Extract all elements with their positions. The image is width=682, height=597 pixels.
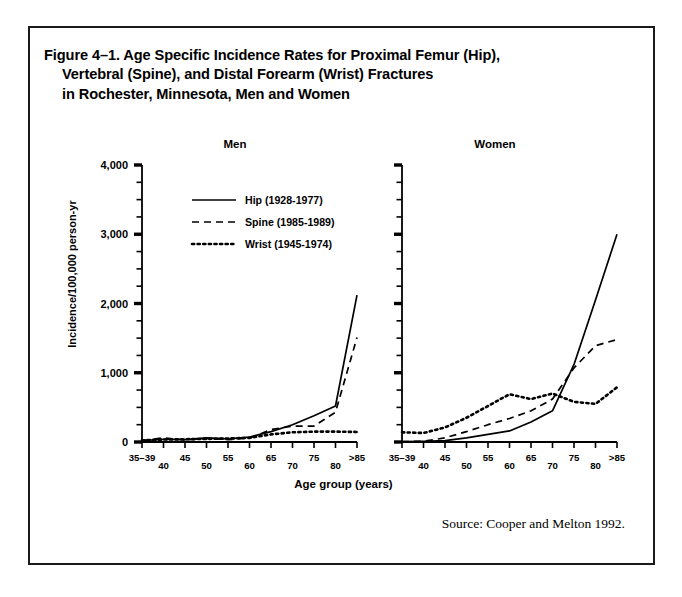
- y-tick-label: 2,000: [100, 298, 128, 310]
- source-note: Source: Cooper and Melton 1992.: [442, 516, 625, 532]
- panel-men: 35–39404550556065707580>8501,0002,0003,0…: [100, 159, 365, 471]
- x-tick-label: >85: [609, 452, 626, 463]
- y-tick-label: 4,000: [100, 159, 128, 171]
- x-tick-label: 45: [180, 452, 191, 463]
- y-tick-label: 1,000: [100, 367, 128, 379]
- x-tick-label: 35–39: [129, 452, 156, 463]
- x-tick-label: 55: [223, 452, 234, 463]
- legend-label-wrist: Wrist (1945-1974): [245, 238, 332, 250]
- x-tick-label: 65: [266, 452, 277, 463]
- x-tick-label: 60: [244, 460, 255, 471]
- x-tick-label: 40: [158, 460, 169, 471]
- x-tick-label: 40: [418, 460, 429, 471]
- series-line-solid: [402, 234, 617, 441]
- x-tick-label: 65: [526, 452, 537, 463]
- figure-frame: Figure 4–1. Age Specific Incidence Rates…: [28, 26, 655, 565]
- chart-plot-area: 35–39404550556065707580>8501,0002,0003,0…: [30, 28, 657, 498]
- y-tick-label: 0: [122, 436, 128, 448]
- legend-label-hip: Hip (1928-1977): [245, 194, 323, 206]
- x-tick-label: 70: [287, 460, 298, 471]
- series-line-solid: [142, 295, 357, 440]
- series-line-dashed: [402, 340, 617, 442]
- x-tick-label: >85: [349, 452, 366, 463]
- x-tick-label: 45: [440, 452, 451, 463]
- x-tick-label: 75: [309, 452, 320, 463]
- x-tick-label: 55: [483, 452, 494, 463]
- x-tick-label: 60: [504, 460, 515, 471]
- x-axis-title: Age group (years): [30, 478, 657, 490]
- chart-legend: Hip (1928-1977)Spine (1985-1989)Wrist (1…: [192, 194, 335, 250]
- series-line-dotted: [402, 387, 617, 433]
- panel-women: 35–39404550556065707580>85: [389, 165, 626, 471]
- x-tick-label: 50: [461, 460, 472, 471]
- series-line-dashed: [142, 337, 357, 440]
- x-tick-label: 70: [547, 460, 558, 471]
- y-tick-label: 3,000: [100, 228, 128, 240]
- x-tick-label: 80: [330, 460, 341, 471]
- x-tick-label: 35–39: [389, 452, 416, 463]
- x-tick-label: 80: [590, 460, 601, 471]
- legend-label-spine: Spine (1985-1989): [245, 216, 335, 228]
- x-tick-label: 50: [201, 460, 212, 471]
- x-tick-label: 75: [569, 452, 580, 463]
